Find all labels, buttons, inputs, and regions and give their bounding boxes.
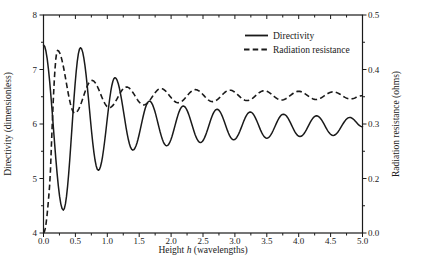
left-tick-label: 7	[33, 65, 38, 75]
directivity-curve	[44, 45, 363, 210]
left-tick-label: 4	[33, 228, 38, 238]
right-tick-label: 0.3	[368, 119, 380, 129]
legend: Directivity Radiation resistance	[244, 31, 350, 55]
x-axis-title: Height h (wavelengths)	[158, 245, 247, 256]
legend-radiation-label: Radiation resistance	[273, 45, 350, 55]
left-axis-title: Directivity (dimensionless)	[3, 72, 14, 176]
plot-series	[44, 45, 363, 233]
left-tick-label: 8	[33, 10, 38, 20]
x-tick-label: 3.5	[261, 236, 273, 246]
legend-directivity-label: Directivity	[273, 31, 314, 41]
right-tick-label: 0.0	[368, 228, 380, 238]
left-tick-label: 6	[33, 119, 38, 129]
right-axis-title: Radiation resistance (ohms)	[391, 71, 402, 177]
x-tick-label: 1.5	[134, 236, 146, 246]
left-tick-label: 5	[33, 174, 38, 184]
chart-svg: 0.00.51.01.52.02.53.03.54.04.55.0456780.…	[0, 0, 421, 274]
right-tick-label: 0.4	[368, 65, 380, 75]
right-tick-label: 0.5	[368, 10, 380, 20]
x-tick-label: 4.0	[293, 236, 305, 246]
x-tick-label: 0.5	[70, 236, 82, 246]
right-tick-label: 0.2	[368, 174, 379, 184]
x-tick-label: 0.0	[38, 236, 50, 246]
x-tick-label: 1.0	[102, 236, 114, 246]
x-tick-label: 4.5	[325, 236, 337, 246]
chart: 0.00.51.01.52.02.53.03.54.04.55.0456780.…	[0, 0, 421, 274]
x-tick-label: 5.0	[357, 236, 369, 246]
